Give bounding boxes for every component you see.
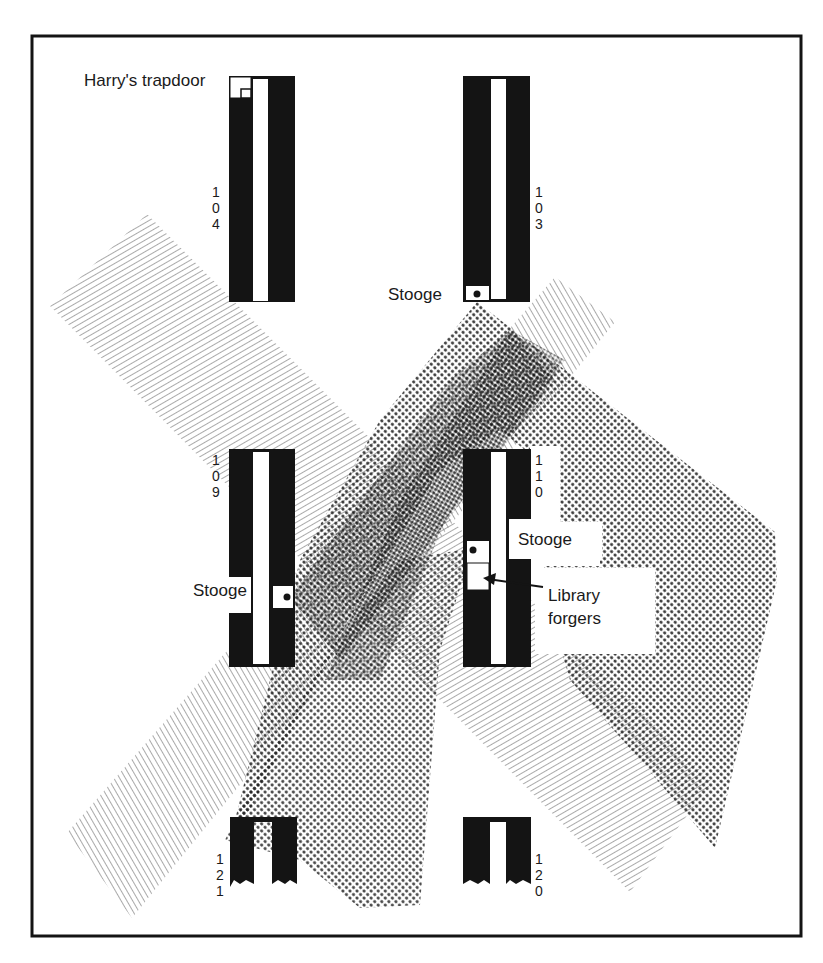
label-stooge-109: Stooge [193, 581, 247, 600]
stack-120 [463, 817, 531, 884]
stack-109 [229, 449, 295, 667]
svg-text:3: 3 [535, 216, 543, 232]
stooge-marker-103 [474, 291, 481, 298]
svg-text:1: 1 [216, 851, 224, 867]
label-harrys-trapdoor: Harry's trapdoor [84, 71, 206, 90]
svg-text:1: 1 [535, 851, 543, 867]
label-stooge-110: Stooge [518, 530, 572, 549]
svg-text:1: 1 [535, 184, 543, 200]
stack-number-109: 1 0 9 [212, 452, 220, 500]
svg-text:4: 4 [212, 216, 220, 232]
svg-text:1: 1 [216, 883, 224, 899]
stooge-marker-109 [284, 594, 291, 601]
stack-number-104: 1 0 4 [212, 184, 220, 232]
svg-text:0: 0 [535, 200, 543, 216]
stack-number-110: 1 1 0 [535, 452, 543, 500]
stack-number-103: 1 0 3 [535, 184, 543, 232]
stooge-marker-110 [470, 547, 477, 554]
stack-number-121: 1 2 1 [216, 851, 224, 899]
surveillance-diagram: Harry's trapdoor Stooge Stooge Stooge Li… [0, 0, 823, 963]
stack-104 [229, 76, 295, 302]
svg-text:2: 2 [216, 867, 224, 883]
label-stooge-103: Stooge [388, 285, 442, 304]
svg-text:1: 1 [535, 468, 543, 484]
svg-text:0: 0 [535, 484, 543, 500]
label-library-forgers-1: Library [548, 586, 600, 605]
svg-text:1: 1 [212, 184, 220, 200]
svg-text:9: 9 [212, 484, 220, 500]
stack-103 [463, 76, 530, 302]
label-library-forgers-2: forgers [548, 609, 601, 628]
stack-110 [463, 449, 531, 667]
stack-number-120: 1 2 0 [535, 851, 543, 899]
svg-text:1: 1 [212, 452, 220, 468]
svg-text:0: 0 [212, 200, 220, 216]
svg-text:0: 0 [212, 468, 220, 484]
svg-text:0: 0 [535, 883, 543, 899]
svg-text:1: 1 [535, 452, 543, 468]
svg-text:2: 2 [535, 867, 543, 883]
